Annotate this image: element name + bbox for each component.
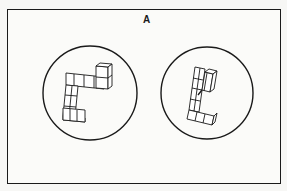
left-cube-object [63,63,112,122]
right-circle [161,47,253,139]
left-circle [43,46,137,140]
rotation-figure [0,0,287,191]
right-cube-object [187,67,217,125]
